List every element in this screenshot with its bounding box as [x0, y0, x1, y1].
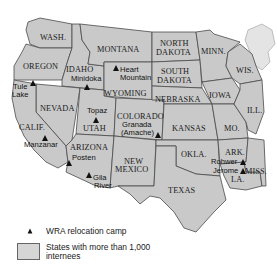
label-wash: WASH. [40, 34, 66, 42]
label-ark: ARK. [225, 149, 245, 157]
camp-triangle-icon [240, 168, 246, 174]
label-la: LA. [231, 176, 244, 184]
label-south-dakota-1: SOUTH [161, 68, 189, 76]
label-new-mexico-2: MEXICO [115, 166, 148, 174]
label-idaho: IDAHO [66, 66, 93, 74]
label-nevada: NEVADA [40, 105, 75, 113]
camp-triangle-icon [84, 84, 90, 90]
legend-states-label-2: internees [46, 252, 80, 261]
label-north-dakota-2: DAKOTA [156, 49, 191, 57]
camp-triangle-icon [240, 159, 246, 165]
label-nebraska: NEBRASKA [155, 96, 201, 104]
label-arizona: ARIZONA [70, 144, 108, 152]
label-wyoming: WYOMING [104, 90, 147, 98]
label-minn: MINN. [201, 48, 226, 56]
label-montana: MONTANA [97, 46, 139, 54]
camp-triangle-icon [113, 65, 119, 71]
wra-camps-map: WASH. OREGON CALIF. NEVADA IDAHO MONTANA… [0, 0, 277, 268]
label-mo: MO. [224, 125, 240, 133]
label-miss: MISS. [245, 168, 267, 176]
label-iowa: IOWA [209, 92, 231, 100]
camp-label-tule-lake-2: Lake [12, 91, 28, 99]
camp-label-minidoka: Minidoka [71, 75, 101, 83]
camp-triangle-icon [86, 172, 92, 178]
camp-label-posten: Posten [72, 154, 96, 162]
label-wis: WIS. [236, 67, 254, 75]
label-calif: CALIF. [19, 124, 45, 132]
camp-triangle-icon [155, 132, 161, 138]
camp-label-rohwer: Rohwer [211, 158, 237, 166]
camp-label-granada-2: (Amache) [121, 129, 154, 137]
label-south-dakota-2: DAKOTA [157, 77, 192, 85]
camp-label-manzanar: Manzanar [24, 141, 58, 149]
legend-camp-label: WRA relocation camp [46, 227, 127, 236]
label-kansas: KANSAS [172, 125, 206, 133]
label-oregon: OREGON [23, 63, 58, 71]
label-ill: ILL. [247, 107, 262, 115]
label-okla: OKLA. [181, 151, 207, 159]
label-north-dakota-1: NORTH [160, 40, 189, 48]
camp-triangle-icon [93, 117, 99, 123]
camp-label-topaz: Topaz [87, 107, 107, 115]
legend-states-swatch [17, 243, 40, 260]
label-texas: TEXAS [168, 187, 195, 195]
camp-triangle-icon [30, 80, 36, 86]
label-utah: UTAH [83, 125, 106, 133]
camp-label-gila-river-2: River [94, 182, 112, 190]
legend-camp-triangle-icon [28, 229, 33, 234]
camp-label-heart-mountain-2: Mountain [120, 74, 151, 82]
camp-label-jerome: Jerome [213, 167, 238, 175]
state-kansas [162, 104, 218, 140]
